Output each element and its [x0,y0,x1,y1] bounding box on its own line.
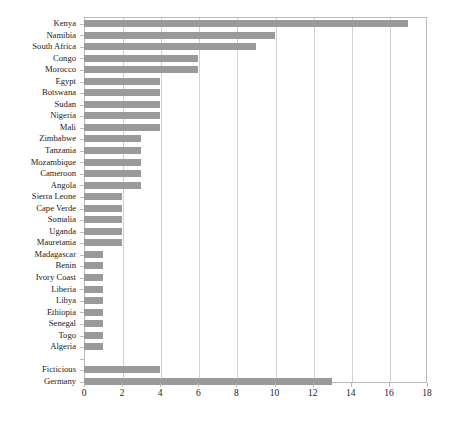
x-axis-tick [198,383,199,387]
bar-row [84,99,427,111]
bar-row [84,110,427,122]
bar [84,112,160,119]
bar-row [84,145,427,157]
x-axis-tick [236,383,237,387]
bar [84,262,103,269]
y-axis-tick [80,359,84,360]
x-axis-tick [275,383,276,387]
category-label: Madagascar [0,249,80,261]
bar [84,89,160,96]
category-label: Cameroon [0,168,80,180]
bar-row [84,237,427,249]
x-axis-tick [160,383,161,387]
bar-row [84,341,427,353]
x-axis-tick-label: 14 [346,388,356,398]
bar [84,251,103,258]
x-axis-tick-label: 4 [158,388,163,398]
bar [84,193,122,200]
bar-row [84,214,427,226]
bar [84,101,160,108]
bar-row [84,284,427,296]
x-axis-tick [427,383,428,387]
bar [84,297,103,304]
bar-row [84,260,427,272]
bar [84,170,141,177]
bar-row [84,18,427,30]
bar-row-spacer [84,353,427,365]
category-label: Egypt [0,76,80,88]
bar [84,309,103,316]
bar [84,216,122,223]
bar [84,366,160,373]
bar-row [84,272,427,284]
category-label: Angola [0,180,80,192]
bar [84,32,275,39]
bar [84,159,141,166]
bar [84,66,198,73]
x-axis-tick-label: 12 [308,388,318,398]
category-label: Ethiopia [0,307,80,319]
bar-row [84,53,427,65]
x-axis-tick [313,383,314,387]
category-label: Mozambique [0,157,80,169]
category-label: Libya [0,295,80,307]
x-axis-tick-label: 16 [384,388,394,398]
bar-row [84,76,427,88]
x-axis-tick [389,383,390,387]
bar [84,20,408,27]
bar-row [84,30,427,42]
bar-row [84,180,427,192]
category-label: Botswana [0,87,80,99]
category-label: Sierra Leone [0,191,80,203]
bar-chart: KenyaNamibiaSouth AfricaCongoMoroccoEgyp… [0,0,457,434]
category-label: Mauretania [0,237,80,249]
bar [84,228,122,235]
category-label: Mali [0,122,80,134]
category-label: Ivory Coast [0,272,80,284]
category-label: Nigeria [0,110,80,122]
category-label: Liberia [0,284,80,296]
category-label: Ficticious [0,364,80,376]
bar-row [84,203,427,215]
bar-row [84,133,427,145]
bar [84,135,141,142]
bar-row [84,122,427,134]
category-label: Germany [0,376,80,388]
category-label: Algeria [0,341,80,353]
x-axis-tick-label: 6 [196,388,201,398]
bar [84,43,256,50]
category-label: Namibia [0,30,80,42]
bar [84,124,160,131]
bar [84,343,103,350]
bar-rows [84,18,427,388]
bar [84,55,198,62]
bar-row [84,249,427,261]
bar-row [84,318,427,330]
category-label: Uganda [0,226,80,238]
bar-row [84,226,427,238]
x-axis-tick-label: 2 [120,388,125,398]
bar-row [84,330,427,342]
bar-row [84,295,427,307]
category-label-spacer [0,353,80,365]
bar [84,205,122,212]
bar [84,147,141,154]
category-label: Tanzania [0,145,80,157]
category-label: Senegal [0,318,80,330]
bar-row [84,364,427,376]
bar [84,78,160,85]
x-axis: 024681012141618 [84,383,427,409]
category-label: Togo [0,330,80,342]
x-axis-tick-label: 10 [270,388,280,398]
x-axis-tick [351,383,352,387]
bar-row [84,191,427,203]
category-axis-labels: KenyaNamibiaSouth AfricaCongoMoroccoEgyp… [0,18,80,388]
category-label: Zimbabwe [0,133,80,145]
category-label: Somalia [0,214,80,226]
bar-row [84,307,427,319]
bar-row [84,64,427,76]
bar [84,286,103,293]
bar-row [84,41,427,53]
bar-row [84,157,427,169]
x-axis-tick [122,383,123,387]
